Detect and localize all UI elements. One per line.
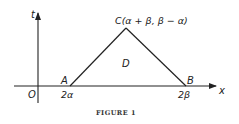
side-ac bbox=[70, 28, 126, 86]
x-axis-label: x bbox=[218, 85, 225, 96]
point-b-coord: 2β bbox=[178, 89, 190, 100]
region-d-label: D bbox=[122, 58, 130, 69]
figure-caption: FIGURE 1 bbox=[96, 109, 136, 117]
point-c-label: C(α + β, β − α) bbox=[115, 15, 188, 26]
figure-canvas: t x O A 2α B 2β C(α + β, β − α) D FIGURE… bbox=[0, 0, 239, 124]
origin-label: O bbox=[28, 89, 36, 100]
side-cb bbox=[126, 28, 186, 86]
point-a-label: A bbox=[60, 75, 68, 86]
point-a-coord: 2α bbox=[61, 89, 74, 100]
t-axis-label: t bbox=[31, 9, 36, 20]
point-b-label: B bbox=[187, 75, 194, 86]
